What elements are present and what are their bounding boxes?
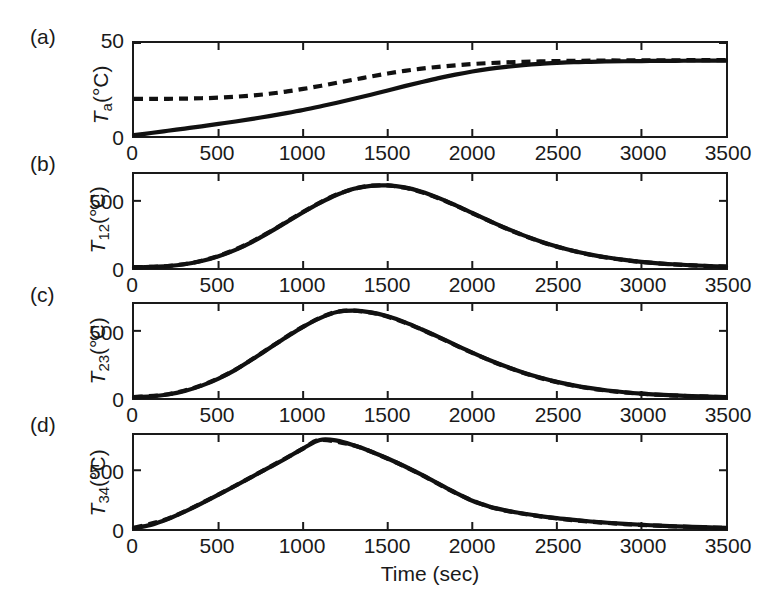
x-tick-mark bbox=[218, 522, 220, 529]
x-tick-mark bbox=[218, 174, 220, 181]
y-tick-mark bbox=[134, 469, 141, 471]
x-tick-mark bbox=[387, 43, 389, 50]
x-tick-mark bbox=[302, 174, 304, 181]
x-tick-mark bbox=[387, 522, 389, 529]
y-tick-mark bbox=[719, 42, 726, 44]
x-tick-mark bbox=[640, 174, 642, 181]
y-tick-mark bbox=[134, 42, 141, 44]
x-tick-mark bbox=[556, 435, 558, 442]
x-tick-mark bbox=[640, 304, 642, 311]
x-tick-mark bbox=[471, 129, 473, 136]
x-tick-mark bbox=[387, 129, 389, 136]
x-tick-mark bbox=[640, 129, 642, 136]
x-tick-mark bbox=[471, 261, 473, 268]
curve-measured-panel-4 bbox=[134, 439, 726, 528]
curve-measured-panel-3 bbox=[134, 311, 726, 397]
x-tick-mark bbox=[302, 304, 304, 311]
y-tick-mark bbox=[134, 330, 141, 332]
x-tick-mark bbox=[640, 435, 642, 442]
x-tick-mark bbox=[218, 261, 220, 268]
x-tick-mark bbox=[471, 174, 473, 181]
x-tick-mark bbox=[556, 522, 558, 529]
x-tick-mark bbox=[302, 391, 304, 398]
y-tick-mark bbox=[719, 330, 726, 332]
x-tick-mark bbox=[471, 391, 473, 398]
x-tick-mark bbox=[302, 522, 304, 529]
x-tick-mark bbox=[556, 174, 558, 181]
x-tick-mark bbox=[556, 129, 558, 136]
curve-model-panel-4 bbox=[134, 440, 726, 528]
y-tick-mark bbox=[719, 200, 726, 202]
y-tick-mark bbox=[134, 200, 141, 202]
x-tick-mark bbox=[302, 435, 304, 442]
x-tick-mark bbox=[471, 43, 473, 50]
x-tick-mark bbox=[218, 391, 220, 398]
x-tick-mark bbox=[556, 43, 558, 50]
x-tick-mark bbox=[387, 435, 389, 442]
curve-model-panel-3 bbox=[134, 311, 726, 398]
x-tick-mark bbox=[387, 391, 389, 398]
figure-root: (a) Ta(°C) 50 0 0 500 1000 1500 2000 250… bbox=[0, 0, 780, 607]
x-tick-mark bbox=[302, 261, 304, 268]
x-tick-mark bbox=[387, 261, 389, 268]
x-tick-mark bbox=[387, 174, 389, 181]
x-tick-mark bbox=[218, 435, 220, 442]
curve-measured-panel-1 bbox=[134, 61, 726, 135]
x-tick-mark bbox=[218, 129, 220, 136]
x-tick-mark bbox=[556, 391, 558, 398]
curves-layer bbox=[0, 0, 780, 607]
x-tick-mark bbox=[471, 522, 473, 529]
x-tick-mark bbox=[302, 129, 304, 136]
x-tick-mark bbox=[218, 43, 220, 50]
x-tick-mark bbox=[556, 261, 558, 268]
curve-measured-panel-2 bbox=[134, 185, 726, 267]
x-tick-mark bbox=[556, 304, 558, 311]
y-tick-mark bbox=[719, 469, 726, 471]
x-tick-mark bbox=[471, 304, 473, 311]
x-tick-mark bbox=[640, 43, 642, 50]
x-tick-mark bbox=[218, 304, 220, 311]
x-tick-mark bbox=[387, 304, 389, 311]
x-tick-mark bbox=[302, 43, 304, 50]
x-tick-mark bbox=[471, 435, 473, 442]
